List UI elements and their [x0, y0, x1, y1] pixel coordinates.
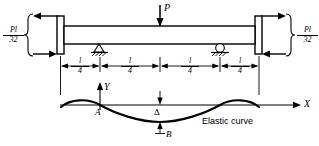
- left-moment-arrow-bottom: [33, 51, 57, 58]
- left-moment-arrow-top: [33, 13, 58, 20]
- elastic-curve-label: Elastic curve: [202, 117, 253, 126]
- right-moment-denominator: 32: [297, 36, 318, 44]
- left-moment-numerator: Pl: [3, 26, 24, 34]
- y-axis-label: Y: [104, 82, 110, 92]
- right-moment-arrow-bottom: [262, 51, 286, 58]
- dimension-1-numerator: l: [71, 57, 89, 65]
- right-moment-brace: [286, 14, 295, 56]
- right-moment-numerator: Pl: [297, 26, 318, 34]
- left-moment-denominator: 32: [3, 36, 24, 44]
- left-moment-label: Pl 32: [3, 26, 24, 44]
- load-label-P: P: [164, 3, 170, 13]
- x-axis-label: X: [304, 99, 310, 109]
- roller-support: [211, 44, 229, 56]
- beam-span: [64, 26, 255, 44]
- dimension-3-denominator: 4: [181, 67, 199, 75]
- pin-support: [91, 44, 108, 56]
- dimension-label-3: l 4: [181, 57, 199, 75]
- left-end-plate: [57, 16, 64, 54]
- dimension-2-denominator: 4: [121, 67, 139, 75]
- right-moment-arrow-top: [261, 13, 286, 20]
- right-end-plate: [255, 16, 262, 54]
- beam-elastic-curve-figure: [0, 0, 319, 146]
- point-b-label: B: [166, 130, 172, 139]
- deflection-label: Δ: [154, 108, 160, 117]
- load-arrow-P: [156, 5, 163, 27]
- left-moment-brace: [24, 14, 33, 56]
- dimension-label-1: l 4: [71, 57, 89, 75]
- point-a-label: A: [95, 108, 101, 117]
- dimension-2-numerator: l: [121, 57, 139, 65]
- dimension-4-denominator: 4: [231, 67, 249, 75]
- dimension-label-2: l 4: [121, 57, 139, 75]
- dimension-1-denominator: 4: [71, 67, 89, 75]
- right-moment-label: Pl 32: [297, 26, 318, 44]
- dimension-extension-lines: [61, 56, 260, 95]
- dimension-label-4: l 4: [231, 57, 249, 75]
- dimension-3-numerator: l: [181, 57, 199, 65]
- dimension-4-numerator: l: [231, 57, 249, 65]
